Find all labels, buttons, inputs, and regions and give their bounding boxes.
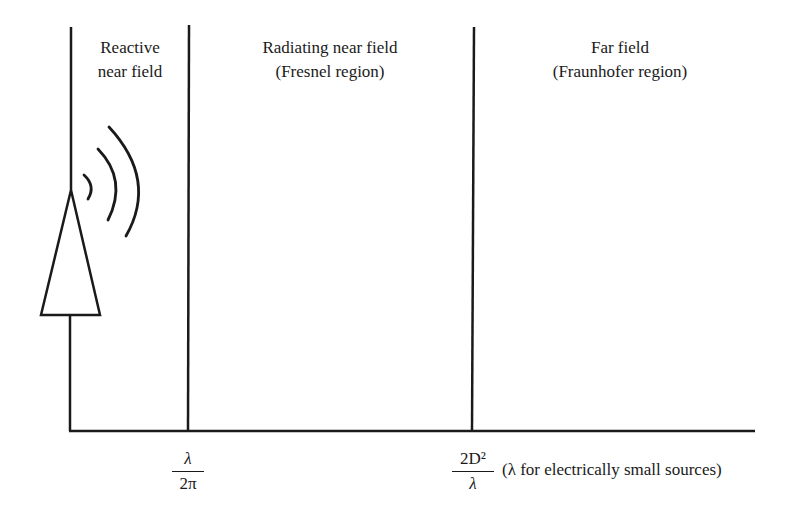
boundary-label-2d2-over-lambda: 2D² λ [452, 449, 494, 494]
region-label-radiating-near-field: Radiating near field (Fresnel region) [220, 36, 440, 84]
fraction-bar [452, 471, 494, 472]
fraction-numerator: λ [172, 449, 204, 469]
fraction-bar [172, 471, 204, 472]
fraction-denominator: 2π [172, 474, 204, 494]
region-label-line1: Far field [520, 36, 720, 60]
radiation-waves-icon [84, 127, 139, 236]
region-label-line2: (Fraunhofer region) [520, 60, 720, 84]
fraction-numerator: 2D² [452, 449, 494, 469]
boundary-label-lambda-over-2pi: λ 2π [172, 449, 204, 494]
boundary-note-small-sources: (λ for electrically small sources) [502, 460, 722, 480]
region-label-line2: (Fresnel region) [220, 60, 440, 84]
region-label-far-field: Far field (Fraunhofer region) [520, 36, 720, 84]
fraction-denominator: λ [452, 474, 494, 494]
region-label-line1: Reactive [78, 36, 182, 60]
boundary-line-reactive [188, 25, 189, 431]
antenna-icon [41, 190, 100, 315]
boundary-line-fresnel [472, 27, 474, 431]
region-label-line2: near field [78, 60, 182, 84]
region-label-line1: Radiating near field [220, 36, 440, 60]
region-label-reactive-near-field: Reactive near field [78, 36, 182, 84]
